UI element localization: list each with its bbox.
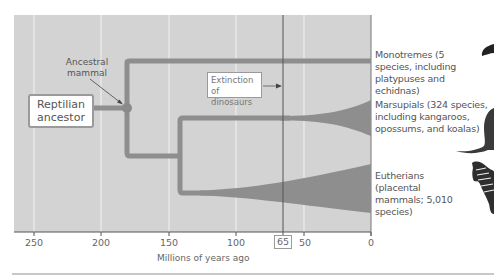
x-tick-50: 50	[299, 237, 311, 248]
bottom-divider	[12, 273, 494, 275]
platypus-icon	[482, 44, 494, 56]
x-tick-100: 100	[227, 237, 245, 248]
x-axis-ticks	[34, 232, 371, 236]
ancestral-mammal-node	[122, 103, 132, 113]
phylogeny-diagram: Reptilian ancestor Ancestral mammal Exti…	[0, 0, 494, 277]
taxon-label-marsupials: Marsupials (324 species, including kanga…	[375, 99, 491, 135]
x-tick-250: 250	[25, 237, 43, 248]
diagram-canvas	[0, 0, 494, 277]
extinction-box: Extinction of dinosaurs	[207, 72, 262, 98]
ancestral-mammal-label: Ancestral mammal	[62, 57, 112, 79]
taxon-label-eutherians: Eutherians (placental mammals; 5,010 spe…	[375, 170, 471, 218]
x-tick-0: 0	[368, 237, 374, 248]
x-tick-200: 200	[92, 237, 110, 248]
extinction-label: Extinction of dinosaurs	[211, 75, 253, 107]
reptilian-ancestor-label: Reptilian ancestor	[30, 98, 92, 124]
x-axis-title: Millions of years ago	[157, 253, 249, 263]
taxon-label-monotremes: Monotremes (5 species, including platypu…	[375, 49, 483, 97]
zebra-icon	[472, 162, 494, 214]
reptilian-ancestor-box: Reptilian ancestor	[28, 94, 94, 128]
x-tick-150: 150	[160, 237, 178, 248]
x-tick-65-highlighted: 65	[274, 235, 292, 249]
